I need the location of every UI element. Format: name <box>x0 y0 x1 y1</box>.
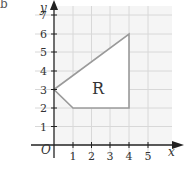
x-axis-label: x <box>168 145 175 159</box>
coordinate-diagram: 1 2 3 4 5 1 2 3 4 5 6 7 y x O R <box>0 0 188 175</box>
origin-label: O <box>41 143 51 157</box>
x-tick-label: 5 <box>145 150 152 163</box>
y-tick-label: 4 <box>40 65 47 78</box>
y-tick-label: 5 <box>40 46 47 59</box>
y-tick-label: 2 <box>40 102 47 115</box>
x-tick-label: 4 <box>126 150 133 163</box>
x-tick-label: 2 <box>88 150 95 163</box>
y-tick-label: 6 <box>40 28 47 41</box>
region-label: R <box>92 79 105 98</box>
y-axis-label: y <box>39 1 47 15</box>
x-tick-label: 1 <box>70 150 77 163</box>
x-tick-label: 3 <box>107 150 114 163</box>
y-axis-arrow-icon <box>50 0 58 10</box>
y-tick-label: 1 <box>40 121 47 134</box>
y-tick-label: 3 <box>40 84 47 97</box>
